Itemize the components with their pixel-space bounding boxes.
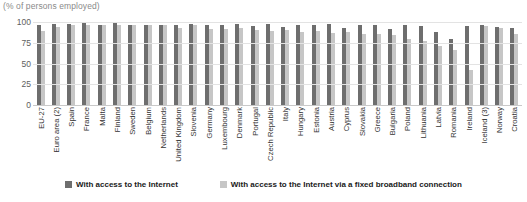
- x-axis-category-cell: France: [79, 106, 94, 172]
- x-axis-tick-label: Finland: [113, 107, 122, 132]
- bar-broadband[interactable]: [56, 27, 60, 105]
- x-axis-category-cell: Poland: [400, 106, 415, 172]
- x-axis-category-cell: Norway: [491, 106, 506, 172]
- x-axis-category-cell: Czech Republic: [262, 106, 277, 172]
- bar-broadband[interactable]: [178, 28, 182, 105]
- bar-broadband[interactable]: [132, 25, 136, 105]
- x-axis-tick-label: Lithuania: [418, 107, 427, 138]
- legend-label: With access to the Internet via a fixed …: [231, 180, 462, 189]
- x-axis-tick-label: Denmark: [235, 107, 244, 138]
- x-axis-tick-label: Spain: [67, 107, 76, 127]
- x-axis-tick-label: Belgium: [143, 107, 152, 135]
- y-axis: 0255075100: [0, 22, 31, 105]
- x-axis-tick-label: Estonia: [311, 107, 320, 133]
- chart-subtitle: (% of persons employed): [3, 1, 100, 11]
- legend-label: With access to the Internet: [76, 180, 178, 189]
- legend-item[interactable]: With access to the Internet via a fixed …: [220, 180, 462, 189]
- plot-area: [33, 22, 522, 105]
- bar-broadband[interactable]: [285, 30, 289, 105]
- x-axis-tick-label: United Kingdom: [174, 107, 183, 162]
- x-axis-category-cell: Cyprus: [339, 106, 354, 172]
- bar-broadband[interactable]: [469, 70, 473, 105]
- x-axis-category-cell: Estonia: [308, 106, 323, 172]
- bar-broadband[interactable]: [239, 28, 243, 105]
- bar-broadband[interactable]: [407, 39, 411, 105]
- y-axis-tick-label: 50: [5, 59, 31, 69]
- grid-line: [33, 84, 522, 85]
- x-axis-tick-label: Portugal: [250, 107, 259, 136]
- x-axis-tick-label: Luxembourg: [220, 107, 229, 150]
- x-axis-category-cell: Lithuania: [415, 106, 430, 172]
- x-axis-tick-label: Croatia: [510, 107, 519, 132]
- y-axis-tick-label: 75: [5, 38, 31, 48]
- x-axis-tick-label: Malta: [97, 107, 106, 126]
- x-axis-tick-label: EU-27: [36, 107, 45, 129]
- bar-broadband[interactable]: [377, 34, 381, 105]
- bar-broadband[interactable]: [102, 25, 106, 106]
- bar-broadband[interactable]: [224, 29, 228, 105]
- x-axis-category-cell: Netherlands: [155, 106, 170, 172]
- x-axis-category-cell: Finland: [109, 106, 124, 172]
- x-axis-category-cell: Belgium: [140, 106, 155, 172]
- x-axis-tick-label: Poland: [403, 107, 412, 131]
- x-axis-category-cell: Greece: [369, 106, 384, 172]
- bar-broadband[interactable]: [423, 41, 427, 105]
- bar-broadband[interactable]: [514, 34, 518, 105]
- x-axis-tick-label: Netherlands: [158, 107, 167, 149]
- chart-container: (% of persons employed) 0255075100 EU-27…: [0, 0, 527, 202]
- x-axis-category-cell: Malta: [94, 106, 109, 172]
- bar-broadband[interactable]: [438, 46, 442, 105]
- legend-item[interactable]: With access to the Internet: [65, 180, 178, 189]
- x-axis-tick-label: Cyprus: [342, 107, 351, 131]
- bar-broadband[interactable]: [484, 26, 488, 105]
- x-axis-tick-label: France: [82, 107, 91, 131]
- x-axis-category-cell: Italy: [278, 106, 293, 172]
- bar-broadband[interactable]: [193, 25, 197, 106]
- bar-broadband[interactable]: [453, 50, 457, 105]
- x-axis-category-cell: Austria: [323, 106, 338, 172]
- bar-broadband[interactable]: [148, 25, 152, 105]
- x-axis-category-cell: Euro area (2): [48, 106, 63, 172]
- square-marker-icon: [65, 181, 72, 188]
- bar-broadband[interactable]: [255, 30, 259, 105]
- bar-broadband[interactable]: [499, 28, 503, 105]
- grid-line: [33, 64, 522, 65]
- x-axis-category-cell: Hungary: [293, 106, 308, 172]
- y-axis-tick-label: 0: [5, 100, 31, 110]
- x-axis-category-cell: Ireland: [461, 106, 476, 172]
- x-axis-category-cell: Slovakia: [354, 106, 369, 172]
- x-axis-category-cell: Spain: [64, 106, 79, 172]
- x-axis-category-cell: Slovenia: [186, 106, 201, 172]
- x-axis-category-cell: Iceland (3): [476, 106, 491, 172]
- x-axis-tick-label: Greece: [372, 107, 381, 132]
- x-axis-category-cell: Bulgaria: [384, 106, 399, 172]
- bar-broadband[interactable]: [86, 25, 90, 105]
- x-axis-tick-label: Norway: [495, 107, 504, 133]
- x-axis-tick-label: Germany: [204, 107, 213, 139]
- bar-broadband[interactable]: [71, 25, 75, 106]
- x-axis-tick-label: Italy: [281, 107, 290, 121]
- x-axis-category-cell: Denmark: [232, 106, 247, 172]
- bar-broadband[interactable]: [163, 25, 167, 105]
- y-axis-tick-label: 100: [5, 17, 31, 27]
- grid-line: [33, 22, 522, 23]
- x-axis-category-cell: United Kingdom: [171, 106, 186, 172]
- square-marker-icon: [220, 181, 227, 188]
- x-axis-tick-label: Slovakia: [357, 107, 366, 136]
- x-axis-tick-label: Iceland (3): [479, 107, 488, 143]
- bar-broadband[interactable]: [209, 29, 213, 105]
- x-axis-category-cell: Croatia: [507, 106, 522, 172]
- x-axis-tick-label: Bulgaria: [388, 107, 397, 135]
- chart-legend: With access to the InternetWith access t…: [0, 180, 527, 189]
- x-axis-tick-label: Slovenia: [189, 107, 198, 137]
- bar-broadband[interactable]: [362, 34, 366, 105]
- bar-broadband[interactable]: [117, 25, 121, 106]
- x-axis-tick-label: Hungary: [296, 107, 305, 136]
- bar-broadband[interactable]: [392, 35, 396, 105]
- x-axis-category-cell: Sweden: [125, 106, 140, 172]
- grid-line: [33, 43, 522, 44]
- x-axis-category-cell: Luxembourg: [216, 106, 231, 172]
- x-axis-tick-label: Latvia: [433, 107, 442, 128]
- x-axis-tick-label: Romania: [449, 107, 458, 138]
- x-axis-category-cell: Romania: [446, 106, 461, 172]
